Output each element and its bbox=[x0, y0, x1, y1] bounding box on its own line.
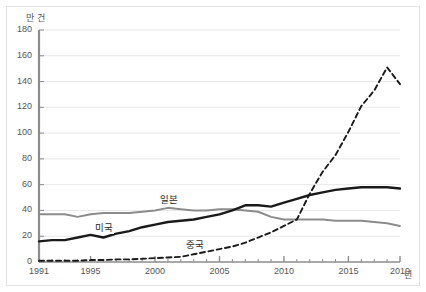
x-tick-label: 2019 bbox=[380, 266, 420, 276]
x-tick-label: 1991 bbox=[19, 266, 59, 276]
y-tick-label: 40 bbox=[6, 204, 32, 214]
x-tick-label: 2015 bbox=[328, 266, 368, 276]
plot-area bbox=[0, 0, 426, 292]
x-tick-label: 2010 bbox=[264, 266, 304, 276]
y-tick-label: 140 bbox=[6, 76, 32, 86]
x-tick-label: 2005 bbox=[200, 266, 240, 276]
y-tick-label: 180 bbox=[6, 24, 32, 34]
gridlines bbox=[39, 30, 400, 236]
series-label-중국: 중국 bbox=[185, 237, 205, 251]
y-tick-label: 120 bbox=[6, 101, 32, 111]
series-label-미국: 미국 bbox=[94, 220, 114, 234]
x-tick-label: 1995 bbox=[71, 266, 111, 276]
series-paths bbox=[39, 67, 400, 260]
y-tick-label: 100 bbox=[6, 127, 32, 137]
y-tick-label: 60 bbox=[6, 179, 32, 189]
y-tick-label: 0 bbox=[6, 256, 32, 266]
y-tick-label: 160 bbox=[6, 50, 32, 60]
chart-container: 만 건 년 020406080100120140160180 199119952… bbox=[0, 0, 426, 292]
y-tick-label: 20 bbox=[6, 230, 32, 240]
x-tick-label: 2000 bbox=[135, 266, 175, 276]
x-major-ticks bbox=[39, 256, 400, 262]
y-tick-label: 80 bbox=[6, 153, 32, 163]
series-line-중국 bbox=[39, 67, 400, 260]
series-label-일본: 일본 bbox=[159, 192, 179, 206]
